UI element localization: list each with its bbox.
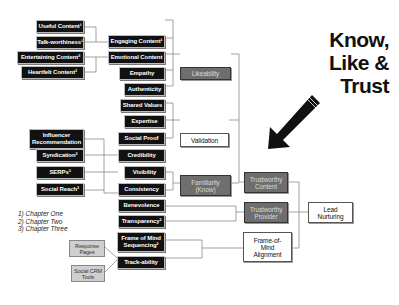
node-entertaining-content: Entertaining Content³ — [17, 51, 84, 64]
headline: Know, Like & Trust — [329, 28, 389, 97]
node-social-crm-tools: Social CRM Tools — [71, 265, 105, 282]
node-influencer-recommendation: Influencer Recommendation — [29, 129, 84, 149]
legend-item: 3) Chapter Three — [18, 225, 68, 233]
node-validation: Validation — [180, 133, 229, 147]
node-transparency: Transparency² — [118, 215, 165, 228]
node-benevolence: Benevolence — [118, 199, 165, 212]
node-consistency: Consistency — [118, 183, 165, 196]
headline-line-1: Know, — [329, 28, 389, 51]
node-visibility: Visibility — [124, 166, 165, 179]
legend-item: 2) Chapter Two — [18, 218, 68, 226]
headline-line-2: Like & — [329, 51, 389, 74]
arrow-icon — [268, 95, 320, 149]
node-lead-nurturing: Lead Nurturing — [308, 202, 353, 223]
diagram-canvas: Know, Like & Trust 1) Chapter One 2) Cha… — [0, 0, 399, 305]
node-familiarity: Familiarity (Know) — [180, 175, 231, 196]
node-shared-values: Shared Values — [120, 99, 165, 112]
node-syndication: Syndication³ — [36, 149, 84, 162]
node-credibility: Credibility — [118, 149, 165, 162]
node-serps: SERPs³ — [36, 166, 84, 179]
node-response-pages: Response Pages — [69, 240, 105, 257]
node-authenticity: Authenticity — [124, 83, 165, 96]
legend-item: 1) Chapter One — [18, 210, 68, 218]
node-engaging-content: Engaging Content¹ — [108, 35, 165, 48]
headline-line-3: Trust — [329, 74, 389, 97]
node-trustworthy-content: Trustworthy Content — [244, 172, 288, 193]
node-likeability: Likeability — [180, 67, 231, 80]
chapter-legend: 1) Chapter One 2) Chapter Two 3) Chapter… — [18, 210, 68, 233]
node-useful-content: Useful Content¹ — [36, 20, 84, 33]
node-heartfelt-content: Heartfelt Content³ — [21, 66, 84, 79]
node-emotional-content: Emotional Content — [108, 51, 165, 64]
node-frame-of-mind-alignment: Frame-of- Mind Alignment — [243, 232, 292, 262]
node-frame-of-mind-sequencing: Frame of Mind Sequencing² — [117, 232, 165, 252]
node-track-ability: Track-ability — [117, 256, 165, 269]
node-talk-worthiness: Talk-worthiness¹ — [36, 36, 84, 49]
node-trustworthy-provider: Trustworthy Provider — [244, 202, 288, 223]
node-expertise: Expertise — [124, 115, 165, 128]
node-social-proof: Social Proof — [118, 132, 165, 145]
node-empathy: Empathy — [119, 67, 165, 80]
node-social-reach: Social Reach³ — [36, 183, 84, 196]
